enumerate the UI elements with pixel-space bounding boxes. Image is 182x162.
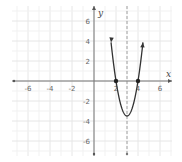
svg-text:4: 4 [86,38,91,46]
x-intercept-point [114,79,118,83]
x-intercept-point [136,79,140,83]
x-axis-label: x [166,69,171,79]
svg-text:2: 2 [86,58,90,66]
svg-text:-6: -6 [83,138,91,146]
axes [12,6,172,156]
y-axis-label: y [97,8,104,18]
svg-text:-4: -4 [83,118,91,126]
svg-text:-4: -4 [47,85,55,93]
svg-text:-2: -2 [69,85,76,93]
svg-text:6: 6 [158,85,163,93]
svg-text:-6: -6 [25,85,33,93]
parabola-graph: -6-4-2246-6-4-2246 x y [0,0,182,162]
svg-text:-2: -2 [83,98,90,106]
svg-text:6: 6 [86,18,91,26]
